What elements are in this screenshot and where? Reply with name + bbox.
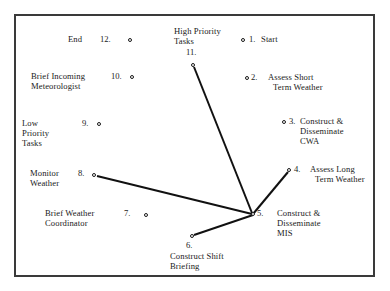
node-12-number: 12. xyxy=(100,34,111,44)
node-9-label-line2: Priority xyxy=(22,128,49,138)
node-5-label-line1: Construct & xyxy=(277,208,320,218)
node-3-marker[interactable] xyxy=(282,120,286,124)
node-3-label-line1: Construct & xyxy=(300,116,343,126)
node-8-number: 8. xyxy=(78,168,84,178)
node-12-label: End xyxy=(68,34,82,44)
node-4-label-line1: Assess Long xyxy=(310,164,355,174)
node-1-number: 1. xyxy=(249,34,255,44)
node-6-label-line2: Briefing xyxy=(170,261,199,271)
node-4-label-line2: Term Weather xyxy=(315,174,365,184)
node-11-label-line2: Tasks xyxy=(174,36,194,46)
node-12-marker[interactable] xyxy=(128,38,132,42)
node-9-number: 9. xyxy=(82,118,88,128)
node-2-label-line1: Assess Short xyxy=(268,72,313,82)
node-5-marker[interactable] xyxy=(251,212,255,216)
node-9-label-line1: Low xyxy=(22,118,38,128)
node-8-label-line2: Weather xyxy=(30,178,59,188)
node-11-marker[interactable] xyxy=(191,63,195,67)
node-8-marker[interactable] xyxy=(92,173,96,177)
node-2-number: 2. xyxy=(251,72,257,82)
node-9-label-line3: Tasks xyxy=(22,138,42,148)
edge-8-to-5 xyxy=(97,176,252,214)
node-5-label-line3: MIS xyxy=(277,228,293,238)
node-6-number: 6. xyxy=(186,240,192,250)
node-4-marker[interactable] xyxy=(287,168,291,172)
node-3-number: 3. xyxy=(289,116,295,126)
node-5-label-line2: Disseminate xyxy=(277,218,321,228)
node-10-label-line2: Meteorologist xyxy=(31,81,81,91)
node-1-label: Start xyxy=(261,34,278,44)
node-1-marker[interactable] xyxy=(241,38,245,42)
node-3-label-line3: CWA xyxy=(300,136,319,146)
node-6-marker[interactable] xyxy=(190,234,194,238)
node-11-label-line1: High Priority xyxy=(174,26,221,36)
node-6-label-line1: Construct Shift xyxy=(170,251,224,261)
node-8-label-line1: Monitor xyxy=(30,168,59,178)
edge-11-to-5 xyxy=(194,67,252,213)
node-5-number: 5. xyxy=(257,208,263,218)
node-3-label-line2: Disseminate xyxy=(300,126,344,136)
diagram-edges-layer xyxy=(0,0,390,291)
node-7-marker[interactable] xyxy=(144,213,148,217)
node-7-number: 7. xyxy=(124,208,130,218)
node-10-number: 10. xyxy=(111,71,122,81)
node-11-number: 11. xyxy=(186,47,196,57)
node-7-label-line1: Brief Weather xyxy=(45,208,94,218)
node-10-marker[interactable] xyxy=(130,75,134,79)
node-7-label-line2: Coordinator xyxy=(45,218,88,228)
node-2-label-line2: Term Weather xyxy=(273,82,323,92)
edge-6-to-5 xyxy=(194,215,253,235)
node-2-marker[interactable] xyxy=(245,76,249,80)
node-4-number: 4. xyxy=(294,164,300,174)
node-9-marker[interactable] xyxy=(97,122,101,126)
node-10-label-line1: Brief Incoming xyxy=(31,71,85,81)
